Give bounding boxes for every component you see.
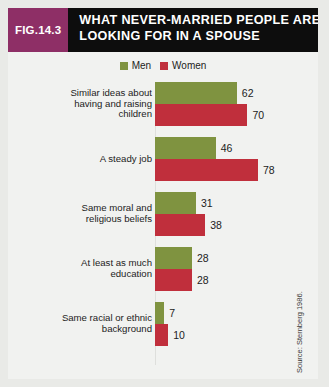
bar-group-label: A steady job [28,154,152,165]
legend-label-men: Men [132,60,151,71]
chart-bar-groups: Similar ideas abouthaving and raisingchi… [8,82,318,357]
bar-value-women: 70 [252,109,264,121]
bar-women [155,104,247,126]
bar-group-label-line: religious beliefs [28,214,152,225]
bar-row-women: 78 [155,159,275,181]
bar-group: Similar ideas abouthaving and raisingchi… [8,82,318,137]
bar-men [155,192,196,214]
figure-container: FIG.14.3 WHAT NEVER-MARRIED PEOPLE ARE L… [0,0,329,387]
bar-pair: 4678 [155,137,275,181]
bar-row-men: 7 [155,302,185,324]
bar-group-label: Similar ideas abouthaving and raisingchi… [28,88,152,120]
bar-group-label: Same racial or ethnicbackground [28,313,152,334]
bar-women [155,159,258,181]
bar-group: Same moral andreligious beliefs3138 [8,192,318,247]
figure-title-line-2: LOOKING FOR IN A SPOUSE [79,29,318,45]
bar-group: At least as mucheducation2828 [8,247,318,302]
figure-title-line-1: WHAT NEVER-MARRIED PEOPLE ARE [79,13,318,29]
bar-men [155,82,237,104]
bar-value-men: 28 [197,252,209,264]
bar-row-men: 28 [155,247,209,269]
bar-men [155,302,164,324]
bar-value-women: 78 [263,164,275,176]
legend-label-women: Women [172,60,206,71]
bar-value-men: 46 [221,142,233,154]
bar-value-men: 62 [242,87,254,99]
source-credit: Source: Sternberg 1986. [304,253,316,373]
bar-row-women: 70 [155,104,264,126]
bar-group-label-line: children [28,109,152,120]
figure-header: FIG.14.3 WHAT NEVER-MARRIED PEOPLE ARE L… [8,8,318,52]
bar-pair: 710 [155,302,185,346]
bar-group-label: Same moral andreligious beliefs [28,203,152,224]
bar-group-label-line: A steady job [28,154,152,165]
bar-group: Same racial or ethnicbackground710 [8,302,318,357]
bar-row-men: 46 [155,137,275,159]
bar-value-men: 31 [201,197,213,209]
legend-item-men: Men [120,60,151,71]
chart-plot-area: Men Women Similar ideas abouthaving and … [8,52,318,379]
figure-number-badge: FIG.14.3 [8,8,68,52]
legend-item-women: Women [160,60,206,71]
chart-legend: Men Women [8,60,318,71]
bar-pair: 3138 [155,192,222,236]
bar-row-men: 31 [155,192,222,214]
bar-value-women: 38 [210,219,222,231]
bar-row-women: 10 [155,324,185,346]
bar-group-label: At least as mucheducation [28,258,152,279]
bar-value-women: 10 [173,329,185,341]
source-credit-text: Source: Sternberg 1986. [295,291,304,373]
bar-group-label-line: education [28,269,152,280]
bar-men [155,137,216,159]
bar-men [155,247,192,269]
bar-women [155,214,205,236]
bar-pair: 6270 [155,82,264,126]
legend-swatch-women [160,62,168,70]
bar-pair: 2828 [155,247,209,291]
bar-group: A steady job4678 [8,137,318,192]
bar-group-label-line: background [28,324,152,335]
bar-women [155,269,192,291]
bar-row-women: 38 [155,214,222,236]
bar-value-women: 28 [197,274,209,286]
figure-title: WHAT NEVER-MARRIED PEOPLE ARE LOOKING FO… [68,8,318,52]
bar-value-men: 7 [169,307,175,319]
bar-row-women: 28 [155,269,209,291]
bar-row-men: 62 [155,82,264,104]
legend-swatch-men [120,62,128,70]
bar-women [155,324,168,346]
